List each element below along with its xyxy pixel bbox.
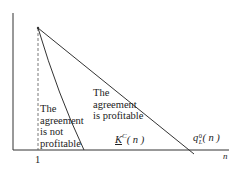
apex-point xyxy=(37,27,39,29)
x-axis-label: n xyxy=(223,151,228,163)
curve-label-k-c: KC( n ) xyxy=(115,131,144,145)
region-not-profitable-line-4: profitable xyxy=(40,138,84,150)
q-arg: ( n ) xyxy=(202,132,220,143)
k-c-arg: ( n ) xyxy=(127,134,145,145)
curve-label-q-l0: q0L( n ) xyxy=(193,132,220,145)
k-c-main: K xyxy=(115,134,122,145)
q-main: q xyxy=(193,132,198,143)
region-not-profitable: The agreement is not profitable xyxy=(40,103,84,149)
region-profitable: The agreement is profitable xyxy=(93,87,143,122)
region-not-profitable-line-2: agreement xyxy=(40,115,84,127)
region-profitable-line-2: agreement xyxy=(93,99,143,111)
region-profitable-line-3: is profitable xyxy=(93,110,143,122)
region-profitable-line-1: The xyxy=(93,87,143,99)
region-not-profitable-line-3: is not xyxy=(40,126,84,138)
x-tick-label: 1 xyxy=(35,154,40,166)
region-not-profitable-line-1: The xyxy=(40,103,84,115)
